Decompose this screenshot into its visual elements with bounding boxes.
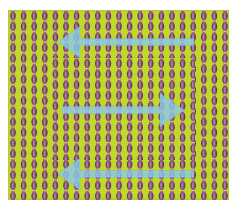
texture-panel [8,10,229,200]
figure-root: A yellow-green square filled with twenty… [0,0,241,216]
bead-region-phase-shifted [48,58,195,160]
bead-texture-layer [8,10,229,200]
